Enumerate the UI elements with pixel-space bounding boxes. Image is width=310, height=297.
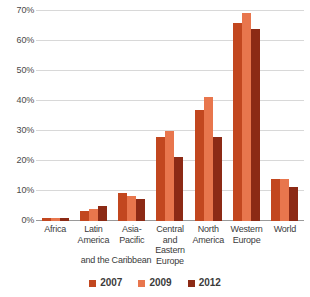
x-axis-tick-label: LatinAmerica bbox=[74, 224, 112, 245]
bar bbox=[213, 137, 222, 221]
bar bbox=[271, 179, 280, 221]
bar-group bbox=[151, 0, 189, 221]
bar bbox=[136, 199, 145, 222]
bar-groups bbox=[36, 0, 304, 221]
legend-swatch-icon bbox=[138, 280, 145, 287]
bar bbox=[42, 218, 51, 221]
legend-swatch-icon bbox=[89, 280, 96, 287]
bar bbox=[51, 218, 60, 221]
bar-chart: 70%60%50%40%30%20%10%0% AfricaLatinAmeri… bbox=[0, 0, 310, 297]
y-axis-labels: 70%60%50%40%30%20%10%0% bbox=[0, 0, 34, 222]
legend-label: 2012 bbox=[199, 278, 221, 288]
x-axis-tick-label-line: and bbox=[152, 235, 188, 246]
legend-label: 2007 bbox=[100, 278, 122, 288]
x-axis-tick-label-line: Eastern bbox=[152, 245, 188, 256]
bar bbox=[280, 179, 289, 221]
legend-swatch-icon bbox=[188, 280, 195, 287]
x-axis-tick-label-line: Central bbox=[152, 224, 188, 235]
x-axis-tick-label-line: Pacific bbox=[114, 235, 150, 246]
bar bbox=[233, 23, 242, 221]
bar-group bbox=[227, 0, 265, 221]
bar bbox=[98, 206, 107, 221]
bar bbox=[118, 193, 127, 222]
legend-item[interactable]: 2009 bbox=[138, 278, 171, 288]
bar bbox=[80, 211, 89, 222]
x-axis-tick-label-line: Asia- bbox=[114, 224, 150, 235]
legend-item[interactable]: 2007 bbox=[89, 278, 122, 288]
bar bbox=[165, 131, 174, 221]
bar-group bbox=[189, 0, 227, 221]
bar bbox=[156, 137, 165, 221]
y-axis-tick-label: 60% bbox=[0, 36, 34, 45]
y-axis-tick-label: 50% bbox=[0, 66, 34, 75]
x-axis-tick-label: WesternEurope bbox=[227, 224, 265, 245]
y-axis-tick-label: 0% bbox=[0, 216, 34, 225]
bar bbox=[204, 97, 213, 222]
legend: 200720092012 bbox=[0, 278, 310, 288]
x-axis-tick-label-line: America bbox=[190, 235, 226, 246]
bar-group bbox=[266, 0, 304, 221]
x-axis-tick-label-line: Europe bbox=[228, 235, 264, 246]
x-axis-tick-label: NorthAmerica bbox=[189, 224, 227, 245]
bar bbox=[89, 209, 98, 221]
x-axis-tick-label: World bbox=[266, 224, 304, 235]
bar-group bbox=[74, 0, 112, 221]
x-axis-tick-label-line: North bbox=[190, 224, 226, 235]
bar bbox=[242, 13, 251, 222]
y-axis-tick-label: 40% bbox=[0, 96, 34, 105]
x-axis-tick-label: Africa bbox=[36, 224, 74, 235]
plot-area bbox=[36, 0, 304, 222]
x-axis-tick-label-line: Africa bbox=[37, 224, 73, 235]
bar-group bbox=[113, 0, 151, 221]
y-axis-tick-label: 20% bbox=[0, 156, 34, 165]
legend-label: 2009 bbox=[149, 278, 171, 288]
x-axis-tick-label-line: World bbox=[267, 224, 303, 235]
bar bbox=[195, 110, 204, 221]
bar bbox=[174, 157, 183, 222]
legend-item[interactable]: 2012 bbox=[188, 278, 221, 288]
x-axis-label-extra-line: and the Caribbean bbox=[36, 255, 196, 266]
bar bbox=[127, 196, 136, 222]
y-axis-tick-label: 10% bbox=[0, 186, 34, 195]
x-axis-tick-label-line: America bbox=[75, 235, 111, 246]
x-axis-tick-label-line: Western bbox=[228, 224, 264, 235]
y-axis-tick-label: 70% bbox=[0, 6, 34, 15]
x-axis-tick-label-line: Latin bbox=[75, 224, 111, 235]
y-axis-tick-label: 30% bbox=[0, 126, 34, 135]
bar bbox=[251, 29, 260, 221]
bar-group bbox=[36, 0, 74, 221]
bar bbox=[60, 218, 69, 221]
bar bbox=[289, 187, 298, 222]
x-axis-tick-label: Asia-Pacific bbox=[113, 224, 151, 245]
